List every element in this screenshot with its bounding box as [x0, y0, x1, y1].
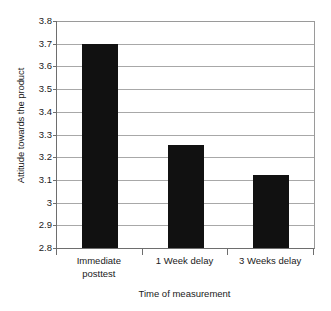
- y-axis-tick-label: 3.4: [26, 107, 52, 117]
- bar: [82, 44, 118, 248]
- x-axis-category-label: Immediateposttest: [56, 255, 142, 280]
- y-axis-tick-mark: [53, 225, 57, 226]
- x-axis-category-label-line: 3 Weeks delay: [227, 255, 313, 268]
- bar-chart: Attitude towards the product 2.82.933.13…: [0, 0, 331, 311]
- y-axis-tick-label: 3.5: [26, 84, 52, 94]
- y-axis-tick-mark: [53, 112, 57, 113]
- y-axis-tick-label: 3.3: [26, 130, 52, 140]
- y-axis-tick-mark: [53, 180, 57, 181]
- bar: [253, 175, 289, 248]
- y-axis-tick-mark: [53, 44, 57, 45]
- x-axis-category-label-line: posttest: [56, 268, 142, 281]
- y-axis-tick-label: 3.6: [26, 61, 52, 71]
- x-axis-category-label-line: 1 Week delay: [142, 255, 228, 268]
- y-axis-tick-label: 3.2: [26, 152, 52, 162]
- y-axis-tick-mark: [53, 66, 57, 67]
- y-axis-tick-label: 3.8: [26, 16, 52, 26]
- y-axis-tick-label: 2.9: [26, 220, 52, 230]
- y-axis-tick-mark: [53, 157, 57, 158]
- x-axis-category-label: 1 Week delay: [142, 255, 228, 268]
- bar: [168, 145, 204, 248]
- x-axis-category-labels: Immediateposttest1 Week delay3 Weeks del…: [56, 255, 313, 291]
- x-axis-tick-mark: [313, 249, 314, 255]
- y-axis-tick-label: 3.1: [26, 175, 52, 185]
- plot-area: [56, 21, 315, 249]
- y-axis-tick-mark: [53, 203, 57, 204]
- x-axis-title: Time of measurement: [56, 288, 313, 299]
- y-axis-tick-mark: [53, 89, 57, 90]
- y-axis-tick-mark: [53, 21, 57, 22]
- y-axis-tick-label: 2.8: [26, 243, 52, 253]
- y-axis-tick-label: 3: [26, 198, 52, 208]
- y-axis-title: Attitude towards the product: [15, 26, 26, 226]
- y-axis-tick-labels: 2.82.933.13.23.33.43.53.63.73.8: [26, 21, 52, 248]
- y-axis-tick-mark: [53, 135, 57, 136]
- y-axis-tick-label: 3.7: [26, 39, 52, 49]
- x-axis-category-label: 3 Weeks delay: [227, 255, 313, 268]
- bars-layer: [57, 21, 314, 248]
- x-axis-category-label-line: Immediate: [56, 255, 142, 268]
